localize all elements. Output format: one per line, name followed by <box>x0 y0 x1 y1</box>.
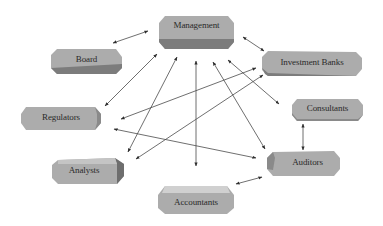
node-management: Management <box>158 15 235 50</box>
node-label: Management <box>158 20 235 30</box>
arrow-board-management <box>113 31 148 43</box>
node-auditors: Auditors <box>266 150 341 177</box>
node-investment-banks: Investment Banks <box>261 50 363 77</box>
node-label: Investment Banks <box>261 57 363 67</box>
node-label: Consultants <box>291 103 364 113</box>
node-label: Regulators <box>20 112 102 122</box>
arrow-management-investment-banks <box>243 37 264 51</box>
node-regulators: Regulators <box>20 106 102 131</box>
arrow-management-analysts <box>128 57 177 152</box>
arrow-accountants-auditors <box>236 177 262 184</box>
node-analysts: Analysts <box>51 156 125 185</box>
node-label: Board <box>50 54 123 64</box>
arrow-management-auditors <box>213 62 265 149</box>
stakeholder-diagram: Management Board Investment Banks Consul… <box>0 0 383 226</box>
node-board: Board <box>50 48 123 75</box>
node-label: Analysts <box>51 165 117 175</box>
arrow-regulators-auditors <box>114 129 256 158</box>
node-consultants: Consultants <box>291 98 364 122</box>
node-label: Accountants <box>157 197 235 207</box>
node-label: Auditors <box>274 157 341 167</box>
node-accountants: Accountants <box>157 185 235 215</box>
